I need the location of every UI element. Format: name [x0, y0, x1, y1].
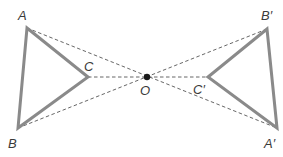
label-c-prime: C′: [193, 82, 205, 97]
dashed-line-b-b-prime: [18, 29, 267, 128]
triangle-a-prime-b-prime-c-prime: [208, 29, 277, 128]
label-a: A: [17, 8, 27, 23]
label-b-prime: B′: [261, 8, 273, 23]
center-point-o: [144, 74, 150, 80]
label-b: B: [8, 136, 17, 151]
enlargement-diagram: A B C A′ B′ C′ O: [0, 0, 283, 157]
dashed-line-a-a-prime: [27, 28, 277, 128]
label-o: O: [140, 83, 150, 98]
label-c: C: [84, 59, 94, 74]
triangle-abc: [18, 28, 88, 128]
label-a-prime: A′: [263, 136, 276, 151]
